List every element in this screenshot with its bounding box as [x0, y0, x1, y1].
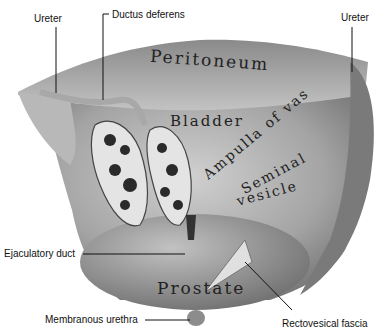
prostate-text: Prostate	[157, 278, 245, 298]
label-membranous-urethra: Membranous urethra	[45, 314, 138, 326]
label-ureter-right: Ureter	[341, 12, 369, 24]
label-ureter-left: Ureter	[34, 13, 62, 25]
label-ejaculatory-duct: Ejaculatory duct	[4, 248, 75, 260]
membranous-urethra-shape	[187, 310, 205, 326]
anatomy-figure: Peritoneum Bladder Ampulla of vas Semina…	[0, 0, 389, 336]
label-rectovesical-fascia: Rectovesical fascia	[282, 318, 368, 330]
left-fascia-shape	[18, 92, 76, 165]
label-ductus-deferens: Ductus deferens	[112, 9, 185, 21]
bladder-text: Bladder	[170, 112, 244, 130]
